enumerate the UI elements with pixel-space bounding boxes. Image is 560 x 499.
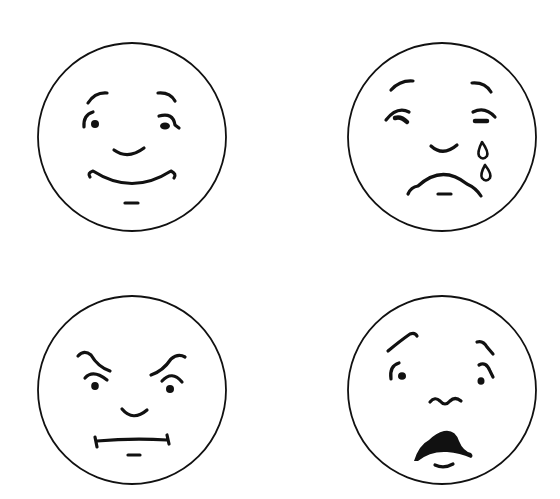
scared-face: Scared / shocked face xyxy=(345,293,539,489)
angry-face: Angry face xyxy=(35,293,229,489)
crying-face-icon xyxy=(345,40,539,236)
angry-face-icon xyxy=(35,293,229,489)
happy-face: Happy face xyxy=(35,40,229,236)
sad-face: Sad / crying face xyxy=(345,40,539,236)
happy-face-icon xyxy=(35,40,229,236)
scared-face-icon xyxy=(345,293,539,489)
